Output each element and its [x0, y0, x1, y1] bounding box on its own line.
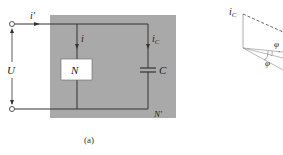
source-current-label: i' [30, 10, 36, 21]
top-terminal [10, 22, 15, 27]
angle-label-phi: φ [274, 39, 279, 49]
figure-caption: (a) [84, 135, 94, 145]
voltage-arrow-up-icon [10, 28, 14, 33]
capacitor-label: C [159, 64, 167, 76]
source-current-arrow-icon [34, 22, 40, 26]
bottom-terminal [10, 107, 15, 112]
figure-canvas: i' U i N iC C N' (a) iC φ φ ' [0, 0, 283, 155]
phasor-ic-label: iC [229, 6, 237, 19]
phasor-current-i [243, 48, 283, 58]
voltage-arrow-down-icon [10, 100, 14, 105]
phasor-dashed-line [243, 14, 283, 32]
angle-prime-mark: ' [278, 49, 280, 57]
angle-label-phi-prime: φ [265, 58, 270, 68]
voltage-label: U [7, 64, 16, 76]
load-label: N [70, 64, 79, 76]
branch-current-label: i [81, 33, 84, 44]
network-label: N' [153, 109, 163, 119]
